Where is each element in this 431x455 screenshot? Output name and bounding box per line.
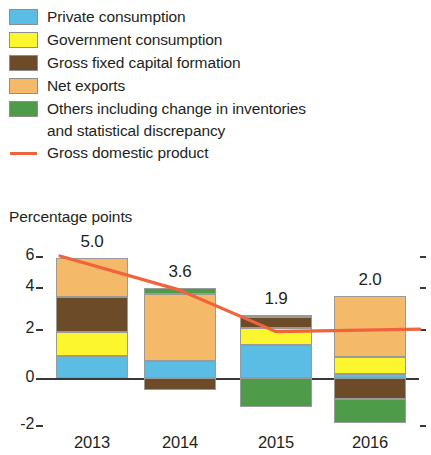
legend-swatch-others — [9, 101, 38, 117]
bar-value-label-2013: 5.0 — [56, 232, 128, 252]
y-tick-mark-right-2 — [420, 329, 426, 331]
y-tick-mark-neg2 — [36, 425, 43, 427]
bar-segment — [56, 258, 128, 297]
legend-item-gross-fixed-capital-formation: Gross fixed capital formation — [9, 52, 429, 75]
x-axis-label-2015: 2015 — [240, 433, 312, 452]
legend-item-private-consumption: Private consumption — [9, 6, 429, 29]
y-tick-label-4: 4 — [8, 277, 34, 295]
legend-swatch-net-exports — [9, 78, 38, 94]
chart-legend: Private consumption Government consumpti… — [9, 6, 429, 165]
bar-2015 — [240, 240, 312, 440]
bar-segment — [144, 378, 216, 390]
bar-value-label-2016: 2.0 — [334, 270, 406, 290]
legend-label-gross-fixed-capital-formation: Gross fixed capital formation — [47, 52, 241, 73]
legend-swatch-gross-fixed-capital-formation — [9, 55, 38, 71]
legend-line-gross-domestic-product — [9, 145, 38, 161]
x-axis-label-2016: 2016 — [334, 433, 406, 452]
legend-label-private-consumption: Private consumption — [47, 6, 186, 27]
x-axis-label-2013: 2013 — [56, 433, 128, 452]
legend-swatch-government-consumption — [9, 32, 38, 48]
legend-label-government-consumption: Government consumption — [47, 29, 222, 50]
y-tick-mark-0 — [36, 378, 43, 380]
legend-label-others: Others including change in inventories — [47, 98, 306, 119]
bar-segment — [334, 399, 406, 423]
bar-value-label-2015: 1.9 — [240, 289, 312, 309]
bar-2013 — [56, 240, 128, 440]
bar-segment — [144, 288, 216, 294]
bar-segment — [144, 294, 216, 361]
bar-segment — [56, 332, 128, 356]
legend-item-gross-domestic-product: Gross domestic product — [9, 142, 429, 165]
y-tick-mark-right-6 — [420, 256, 426, 258]
bar-segment — [334, 378, 406, 399]
chart-plot-area: 6 4 2 0 -2 5.03.61.92.0 — [0, 240, 431, 440]
bar-segment — [240, 345, 312, 378]
bar-segment — [240, 378, 312, 407]
y-tick-mark-4 — [36, 287, 43, 289]
legend-swatch-private-consumption — [9, 9, 38, 25]
bar-segment — [240, 315, 312, 317]
bar-segment — [144, 361, 216, 378]
legend-label-others-continuation: and statistical discrepancy — [47, 121, 429, 142]
bar-segment — [334, 357, 406, 374]
bar-segment — [240, 328, 312, 345]
y-tick-mark-right-neg2 — [420, 425, 426, 427]
bar-value-label-2014: 3.6 — [144, 262, 216, 282]
y-tick-label-2: 2 — [8, 319, 34, 337]
y-tick-label-0: 0 — [8, 368, 34, 386]
y-tick-label-neg2: -2 — [8, 415, 34, 433]
legend-label-net-exports: Net exports — [47, 75, 125, 96]
bar-segment — [240, 317, 312, 328]
legend-label-gross-domestic-product: Gross domestic product — [47, 142, 208, 163]
legend-item-net-exports: Net exports — [9, 75, 429, 98]
y-tick-mark-2 — [36, 329, 43, 331]
legend-item-others: Others including change in inventories — [9, 98, 429, 121]
y-tick-mark-6 — [36, 256, 43, 258]
bar-segment — [334, 296, 406, 357]
y-tick-label-6: 6 — [8, 246, 34, 264]
y-tick-mark-right-4 — [420, 287, 426, 289]
x-axis-label-2014: 2014 — [144, 433, 216, 452]
bar-segment — [56, 297, 128, 331]
legend-item-government-consumption: Government consumption — [9, 29, 429, 52]
y-axis-title: Percentage points — [9, 208, 132, 226]
bar-segment — [56, 356, 128, 378]
